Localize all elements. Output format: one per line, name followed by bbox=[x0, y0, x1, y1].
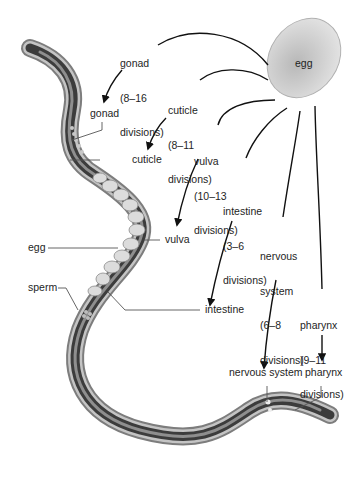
anatomy-pharynx-label: pharynx bbox=[305, 367, 342, 379]
precursor-range: (9–11 bbox=[300, 355, 344, 367]
precursor-name: intestine bbox=[223, 206, 267, 218]
precursor-gonad-label: gonad (8–16 divisions) bbox=[120, 35, 164, 150]
anatomy-nervous-system-label: nervous system bbox=[229, 367, 303, 379]
anatomy-gonad-label: gonad bbox=[90, 108, 119, 120]
anatomy-vulva-label: vulva bbox=[165, 234, 190, 246]
precursor-unit: divisions) bbox=[300, 389, 344, 401]
precursor-name: pharynx bbox=[300, 320, 344, 332]
anatomy-intestine-label: intestine bbox=[205, 304, 244, 316]
precursor-name: gonad bbox=[120, 58, 164, 70]
anatomy-cuticle-label: cuticle bbox=[132, 154, 162, 166]
precursor-range: (6–8 bbox=[260, 320, 304, 332]
egg-cell-label: egg bbox=[295, 58, 313, 70]
precursor-name: cuticle bbox=[168, 105, 212, 117]
precursor-name: nervous bbox=[260, 251, 304, 263]
precursor-range: (8–16 bbox=[120, 93, 164, 105]
anatomy-sperm-label: sperm bbox=[28, 282, 57, 294]
precursor-unit: divisions) bbox=[120, 127, 164, 139]
precursor-unit: divisions) bbox=[260, 355, 304, 367]
anatomy-egg-label: egg bbox=[28, 242, 46, 254]
precursor-name: vulva bbox=[194, 156, 238, 168]
precursor-pharynx-label: pharynx (9–11 divisions) bbox=[300, 297, 344, 412]
precursor-name-line2: system bbox=[260, 286, 304, 298]
precursor-nervous-system-label: nervous system (6–8 divisions) bbox=[260, 228, 304, 378]
